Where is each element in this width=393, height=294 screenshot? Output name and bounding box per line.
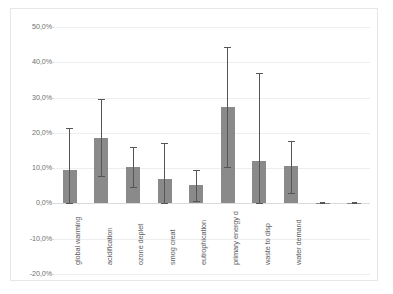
error-bar-cap-upper: [288, 141, 295, 142]
gridline: [54, 239, 370, 240]
x-axis-category-label: eutrophication: [199, 220, 208, 265]
x-axis-category-label: primary energy d: [231, 212, 240, 266]
error-bar-cap-lower: [320, 203, 325, 204]
y-axis-tick-label: 40,0%: [10, 57, 52, 66]
error-bar-line: [101, 99, 102, 176]
error-bar-line: [291, 141, 292, 193]
chart-container: 50,0%40,0%30,0%20,0%10,0%0,0%-10,0%-20,0…: [10, 8, 378, 281]
error-bar-line: [259, 73, 260, 204]
error-bar-cap-lower: [130, 187, 137, 188]
error-bar-line: [227, 47, 228, 167]
error-bar-cap-lower: [66, 203, 73, 204]
error-bar-cap-lower: [98, 176, 105, 177]
error-bar-cap-lower: [352, 203, 357, 204]
x-axis-category-label: water demand: [294, 220, 303, 266]
y-axis-tick-label: -20,0%: [10, 269, 52, 278]
error-bar-cap-lower: [193, 201, 200, 202]
error-bar-cap-upper: [130, 147, 137, 148]
y-axis-tick-label: -10,0%: [10, 234, 52, 243]
error-bar-cap-lower: [288, 193, 295, 194]
plot-area: global warmingacidificationozone deplets…: [54, 27, 370, 274]
y-axis-tick-label: 30,0%: [10, 93, 52, 102]
error-bar-cap-upper: [193, 170, 200, 171]
x-axis-category-label: global warming: [73, 217, 82, 265]
error-bar-cap-upper: [98, 99, 105, 100]
error-bar-line: [196, 170, 197, 201]
error-bar-cap-upper: [66, 128, 73, 129]
error-bar-line: [69, 128, 70, 204]
y-axis-tick-label: 20,0%: [10, 128, 52, 137]
error-bar-cap-upper: [161, 143, 168, 144]
error-bar-cap-upper: [256, 73, 263, 74]
error-bar-cap-lower: [256, 203, 263, 204]
error-bar-cap-upper: [224, 47, 231, 48]
error-bar-cap-lower: [161, 203, 168, 204]
x-axis-category-label: smog creat: [168, 230, 177, 266]
x-axis-category-label: waste to disp: [263, 224, 272, 266]
gridline: [54, 27, 370, 28]
x-axis-category-label: ozone deplet: [136, 224, 145, 265]
x-axis-category-label: acidification: [105, 228, 114, 265]
y-axis: 50,0%40,0%30,0%20,0%10,0%0,0%-10,0%-20,0…: [11, 27, 52, 274]
error-bar-cap-lower: [224, 167, 231, 168]
error-bar-line: [133, 147, 134, 187]
error-bar-line: [164, 143, 165, 202]
gridline: [54, 62, 370, 63]
y-axis-tick-label: 50,0%: [10, 22, 52, 31]
gridline: [54, 274, 370, 275]
y-axis-tick-label: 0,0%: [10, 198, 52, 207]
y-axis-tick-label: 10,0%: [10, 163, 52, 172]
